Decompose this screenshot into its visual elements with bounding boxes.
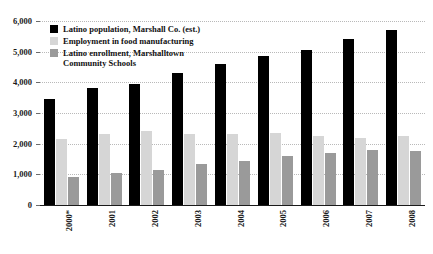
bar [196, 164, 207, 205]
bar [111, 173, 122, 205]
bar [215, 64, 226, 205]
legend-item-food-manufacturing-employment: Employment in food manufacturing [50, 36, 265, 46]
bar [56, 139, 67, 205]
legend-swatch-icon [50, 25, 58, 33]
legend-label: Latino population, Marshall Co. (est.) [63, 24, 200, 34]
bar [343, 39, 354, 205]
bar [129, 84, 140, 205]
bar [258, 56, 269, 205]
bar [410, 151, 421, 205]
legend-label: Latino enrollment, Marshalltown Communit… [63, 48, 184, 68]
legend-swatch-icon [50, 37, 58, 45]
bar [44, 99, 55, 205]
bar [325, 153, 336, 205]
x-axis-tick-label: 2007 [365, 210, 374, 227]
x-axis-tick-label: 2003 [194, 210, 203, 227]
legend: Latino population, Marshall Co. (est.) E… [50, 24, 265, 70]
bar-group [301, 21, 336, 205]
axis-baseline [40, 205, 425, 206]
x-axis-tick-label: 2005 [279, 210, 288, 227]
bar [398, 136, 409, 205]
bar [227, 134, 238, 205]
bar [68, 177, 79, 205]
x-axis-tick-label: 2002 [151, 210, 160, 227]
bar [355, 138, 366, 205]
bar [386, 30, 397, 205]
bar-group [343, 21, 378, 205]
bar [153, 170, 164, 205]
bar [172, 73, 183, 205]
legend-item-latino-enrollment: Latino enrollment, Marshalltown Communit… [50, 48, 265, 68]
legend-label: Employment in food manufacturing [63, 36, 194, 46]
legend-swatch-icon [50, 49, 58, 57]
x-axis-tick-label: 2001 [108, 210, 117, 227]
y-axis-tick-label: 5,000 [13, 47, 32, 56]
bar [301, 50, 312, 205]
y-axis-tick-label: 0 [28, 201, 32, 210]
bar [141, 131, 152, 205]
y-axis-tick-label: 2,000 [13, 139, 32, 148]
x-axis-tick-label: 2000* [65, 210, 74, 231]
bar [313, 136, 324, 205]
y-axis-tick-label: 4,000 [13, 78, 32, 87]
x-axis-tick-label: 2006 [322, 210, 331, 227]
bar [184, 134, 195, 205]
x-axis-tick-label: 2008 [408, 210, 417, 227]
legend-item-latino-population: Latino population, Marshall Co. (est.) [50, 24, 265, 34]
bar [270, 133, 281, 205]
bar [99, 134, 110, 205]
y-axis-tick-label: 6,000 [13, 17, 32, 26]
bar-chart: 01,0002,0003,0004,0005,0006,000 2000*200… [0, 0, 433, 254]
y-axis: 01,0002,0003,0004,0005,0006,000 [0, 21, 36, 205]
x-axis-tick-label: 2004 [237, 210, 246, 227]
bar [87, 88, 98, 205]
y-axis-tick-label: 3,000 [13, 109, 32, 118]
y-axis-tick-label: 1,000 [13, 170, 32, 179]
bar [239, 161, 250, 205]
x-axis: 2000*20012002200320042005200620072008 [40, 207, 425, 254]
bar-group [386, 21, 421, 205]
bar [367, 150, 378, 205]
clipped-title [0, 0, 433, 7]
bar [282, 156, 293, 205]
